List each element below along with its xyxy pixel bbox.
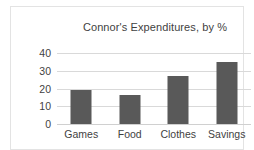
- x-axis-category-label: Clothes: [154, 128, 203, 140]
- bar: [216, 62, 237, 124]
- bar: [168, 76, 189, 124]
- bar: [71, 90, 92, 124]
- chart-title: Connor's Expenditures, by %: [57, 21, 253, 33]
- bar-slot: [203, 53, 252, 124]
- y-axis-tick-label: 20: [39, 83, 51, 95]
- plot-area: 010203040: [57, 53, 251, 124]
- x-axis-category-label: Games: [57, 128, 106, 140]
- bar-slot: [106, 53, 155, 124]
- x-axis-category-label: Savings: [203, 128, 252, 140]
- bar-slot: [154, 53, 203, 124]
- y-axis-tick-label: 30: [39, 65, 51, 77]
- x-axis-labels: GamesFoodClothesSavings: [57, 128, 251, 144]
- chart-container: Connor's Expenditures, by % 010203040 Ga…: [10, 6, 244, 146]
- bar-series: [57, 53, 251, 124]
- x-axis-category-label: Food: [106, 128, 155, 140]
- y-axis-tick-label: 40: [39, 47, 51, 59]
- y-axis-tick-label: 0: [45, 118, 51, 130]
- bar-slot: [57, 53, 106, 124]
- gridline: [57, 124, 251, 125]
- y-axis-tick-label: 10: [39, 100, 51, 112]
- bar: [119, 95, 140, 124]
